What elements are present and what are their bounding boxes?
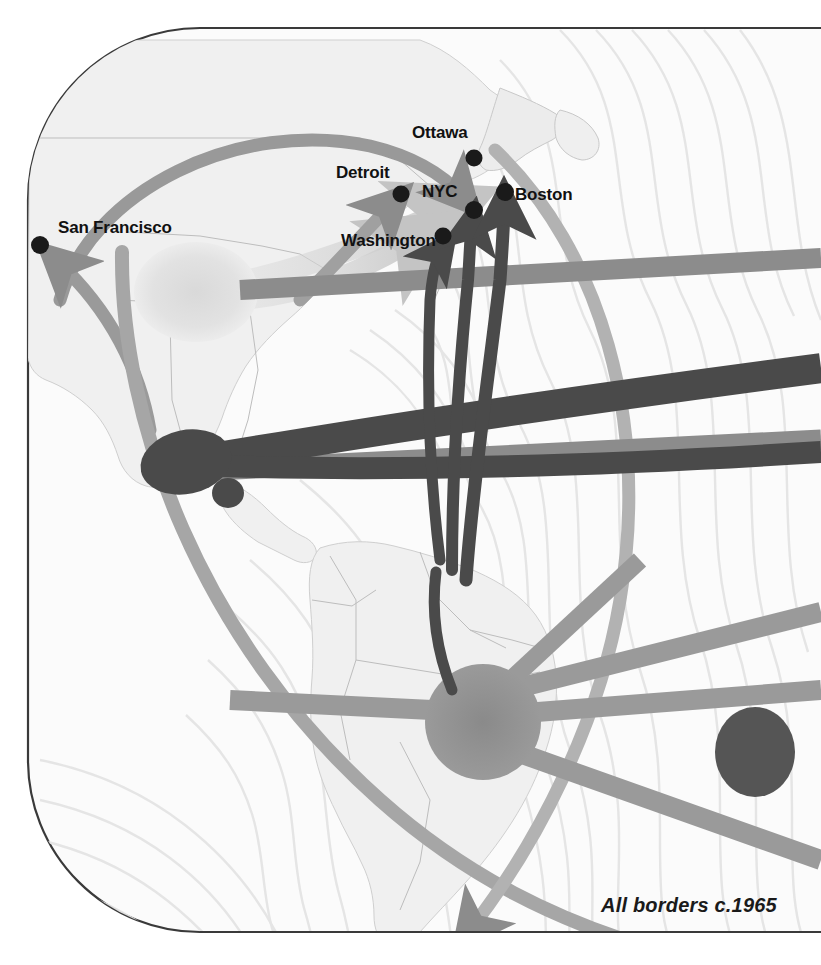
city-dot-ottawa[interactable] [466,150,483,167]
city-dot-nyc[interactable] [465,201,483,219]
city-dot-san-francisco[interactable] [31,236,49,254]
city-label-ottawa: Ottawa [412,124,467,141]
map-canvas [0,0,821,965]
city-dot-boston[interactable] [496,183,514,201]
atlantic-edge-hub-node [715,707,795,797]
city-label-washington: Washington [341,232,436,249]
brazil-spoke-west [230,700,432,710]
city-label-boston: Boston [515,186,572,203]
city-dot-detroit[interactable] [393,186,410,203]
city-label-nyc: NYC [422,183,457,200]
map-figure: San Francisco Detroit Ottawa NYC Boston … [0,0,821,965]
borders-credit-note: All borders c.1965 [601,894,777,917]
city-dot-washington[interactable] [435,228,452,245]
city-label-detroit: Detroit [336,164,389,181]
central-us-hub-node [134,242,258,342]
city-label-san-francisco: San Francisco [58,219,172,236]
brazil-hub-node [425,664,541,780]
caribbean-hub-node [212,478,244,508]
